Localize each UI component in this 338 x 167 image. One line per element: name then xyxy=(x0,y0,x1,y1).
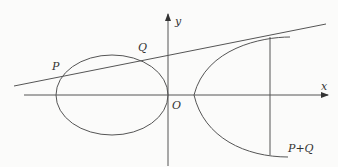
origin-label: O xyxy=(172,99,181,112)
elliptic-curve-diagram: y x O P Q P+Q xyxy=(0,0,338,167)
point-q-label: Q xyxy=(138,41,147,54)
y-axis-label: y xyxy=(174,15,182,28)
secant-line-pq xyxy=(14,24,326,86)
point-sum-label: P+Q xyxy=(287,142,314,155)
curve-unbounded-branch xyxy=(194,37,290,157)
x-axis-label: x xyxy=(321,80,328,93)
point-p-label: P xyxy=(51,60,60,73)
